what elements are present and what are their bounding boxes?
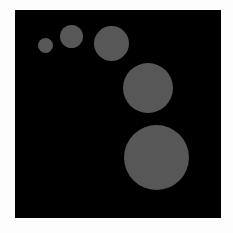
gray-circle-2: [60, 25, 83, 48]
gray-circle-5: [124, 125, 189, 190]
gray-circle-3: [94, 26, 129, 61]
gray-circle-1: [38, 38, 53, 53]
gray-circle-4: [123, 63, 173, 113]
